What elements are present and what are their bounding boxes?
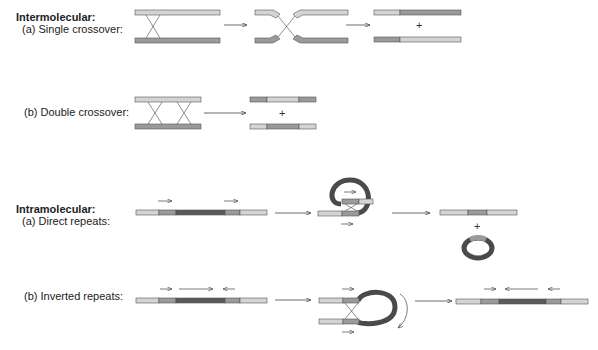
recombination-diagram: + + [0,0,598,350]
circular-product [464,238,492,258]
plus-sign: + [474,220,480,232]
direct-repeats-input [136,201,267,215]
inverted-repeats-intermediate [319,289,407,332]
plus-sign: + [416,19,422,31]
plus-sign: + [279,107,285,119]
single-crossover-input [135,10,220,43]
direct-repeats-products [440,210,517,258]
rotation-arrow-icon [398,294,407,328]
double-crossover-input [135,97,201,129]
single-crossover-intermediate [255,10,348,43]
inverted-repeats-product [456,289,588,304]
inverted-repeats-input [136,289,267,303]
direct-repeats-intermediate [318,180,373,224]
